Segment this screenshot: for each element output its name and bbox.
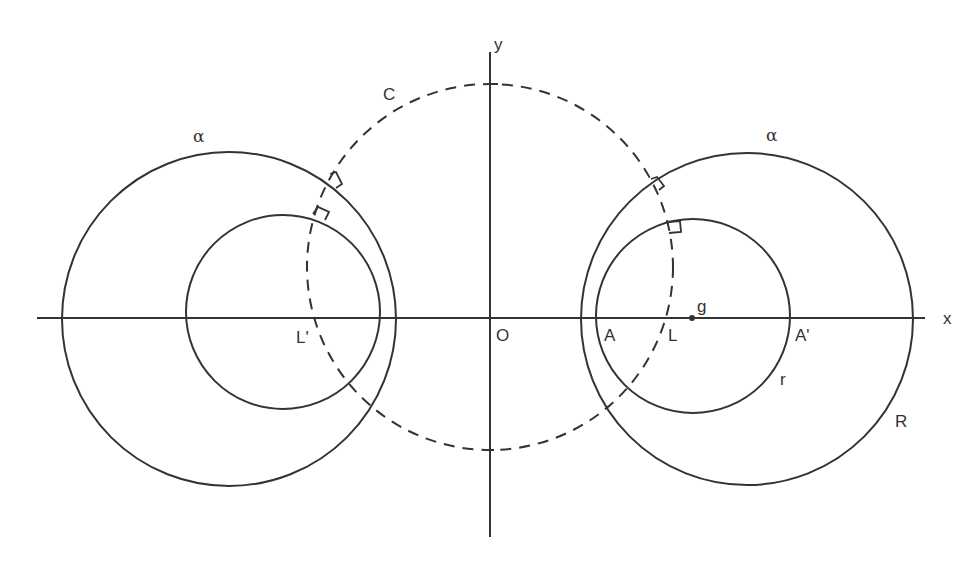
point-l-label: L [668,326,677,345]
centroid-g-label: g [697,297,706,316]
outer-radius-r-label: R [895,412,907,431]
point-a-label: A [604,326,616,345]
left-center-label: L' [296,328,309,347]
diagram-canvas: y x O C α L' α A L g A' r R [0,0,975,564]
x-axis-label: x [943,309,952,328]
circle-c-label: C [383,85,395,104]
left-alpha-label: α [193,126,205,146]
point-a-prime-label: A' [795,326,810,345]
origin-label: O [496,326,509,345]
centroid-point [689,315,695,321]
right-alpha-label: α [766,125,778,145]
left-inner-circle [186,215,380,409]
inner-radius-r-label: r [780,370,786,389]
right-angle-marker-right-outer [651,177,664,190]
y-axis-label: y [494,35,503,54]
